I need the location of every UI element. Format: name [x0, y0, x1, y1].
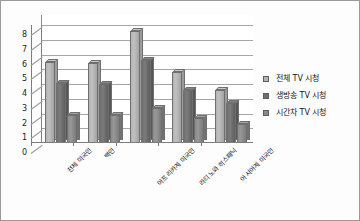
- bar-face: [215, 90, 225, 143]
- bar-group: [215, 25, 247, 143]
- bar[interactable]: [110, 115, 120, 143]
- bar-face: [110, 115, 120, 143]
- bar[interactable]: [141, 60, 151, 143]
- bar-groups: [31, 25, 253, 143]
- plot-area: 012345678: [31, 15, 253, 143]
- x-axis-label: 백인: [103, 147, 117, 161]
- y-tick-label: 4: [22, 90, 27, 98]
- legend-swatch-icon: [263, 93, 269, 99]
- legend-item[interactable]: 전체 TV 시청: [263, 75, 359, 83]
- bar[interactable]: [152, 108, 162, 143]
- bar-face: [194, 118, 204, 143]
- x-tick: [73, 142, 74, 146]
- legend-item[interactable]: 생방송 TV 시청: [263, 92, 359, 100]
- x-axis: [31, 142, 253, 143]
- bar-face: [67, 115, 77, 143]
- x-axis-label: 아프리카계 미국인: [157, 147, 197, 187]
- bar[interactable]: [88, 63, 98, 143]
- x-tick: [31, 142, 32, 146]
- bar-face: [45, 62, 55, 143]
- bar[interactable]: [237, 124, 247, 143]
- bar[interactable]: [130, 31, 140, 143]
- bar-side: [162, 105, 165, 140]
- y-tick-label: 7: [22, 46, 27, 54]
- bar-group: [130, 25, 162, 143]
- bar-group: [88, 25, 120, 143]
- bar-face: [141, 60, 151, 143]
- bar-face: [152, 108, 162, 143]
- bar-chart: 012345678 전체 미국인백인아프리카계 미국인라티노와 히스패닉아시아계…: [0, 0, 360, 221]
- y-tick-label: 1: [22, 134, 27, 142]
- bar[interactable]: [226, 103, 236, 143]
- bar-face: [183, 90, 193, 143]
- bar[interactable]: [67, 115, 77, 143]
- legend-label: 시간차 TV 시청: [276, 109, 326, 117]
- bar-face: [172, 72, 182, 143]
- bar-face: [56, 83, 66, 143]
- bar[interactable]: [194, 118, 204, 143]
- bar-face: [130, 31, 140, 143]
- bar[interactable]: [45, 62, 55, 143]
- bar[interactable]: [172, 72, 182, 143]
- y-tick-label: 2: [22, 120, 27, 128]
- bar-side: [204, 115, 207, 140]
- bar-side: [77, 112, 80, 140]
- x-tick: [158, 142, 159, 146]
- legend-label: 생방송 TV 시청: [276, 92, 326, 100]
- bar-face: [88, 63, 98, 143]
- bar-face: [237, 124, 247, 143]
- x-tick: [201, 142, 202, 146]
- bar[interactable]: [215, 90, 225, 143]
- x-axis-labels: 전체 미국인백인아프리카계 미국인라티노와 히스패닉아시아계 미국인: [31, 147, 253, 217]
- x-axis-label: 라티노와 히스패닉: [199, 147, 239, 187]
- chart-legend: 전체 TV 시청 생방송 TV 시청 시간차 TV 시청: [263, 75, 359, 126]
- legend-item[interactable]: 시간차 TV 시청: [263, 109, 359, 117]
- bar-group: [45, 25, 77, 143]
- bar[interactable]: [56, 83, 66, 143]
- bar-face: [226, 103, 236, 143]
- y-tick-label: 8: [22, 31, 27, 39]
- legend-swatch-icon: [263, 110, 269, 116]
- bar-group: [172, 25, 204, 143]
- y-tick-label: 6: [22, 61, 27, 69]
- x-axis-label: 전체 미국인: [67, 147, 95, 175]
- legend-label: 전체 TV 시청: [276, 75, 319, 83]
- y-tick-label: 3: [22, 105, 27, 113]
- legend-swatch-icon: [263, 76, 269, 82]
- bar-face: [99, 84, 109, 143]
- y-tick-label: 5: [22, 75, 27, 83]
- y-tick-label: 0: [22, 149, 27, 157]
- bar[interactable]: [99, 84, 109, 143]
- x-tick: [116, 142, 117, 146]
- bar-side: [120, 112, 123, 140]
- x-axis-label: 아시아계 미국인: [240, 147, 276, 183]
- bar[interactable]: [183, 90, 193, 143]
